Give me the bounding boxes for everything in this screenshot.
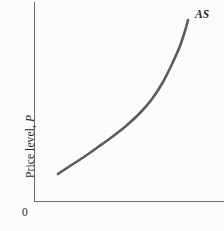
as-curve-figure: Price level, P AS 0 <box>0 0 224 231</box>
origin-label: 0 <box>22 206 28 218</box>
as-curve-path <box>58 20 188 174</box>
y-axis-label-text: Price level, <box>24 122 36 178</box>
as-curve-label: AS <box>195 8 209 20</box>
y-axis-label: Price level, P <box>21 18 39 178</box>
y-axis-label-variable: P <box>24 115 36 122</box>
